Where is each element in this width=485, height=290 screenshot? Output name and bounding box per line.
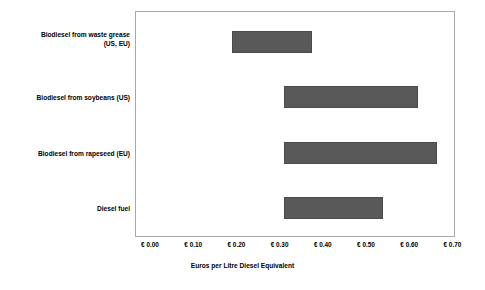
x-tick-label: € 0.30 (260, 241, 300, 248)
category-label-line: Biodiesel from soybeans (US) (8, 94, 130, 103)
x-tick-label: € 0.40 (303, 241, 343, 248)
x-tick-label: € 0.70 (432, 241, 472, 248)
x-tick-label: € 0.20 (216, 241, 256, 248)
category-label-diesel-fuel: Diesel fuel (8, 205, 130, 214)
chart-container: Biodiesel from waste grease (US, EU) Bio… (0, 0, 485, 290)
x-tick-label: € 0.50 (346, 241, 386, 248)
bar-soybeans (284, 86, 418, 108)
bar-waste-grease (232, 31, 312, 53)
category-label-soybeans: Biodiesel from soybeans (US) (8, 94, 130, 103)
bar-diesel-fuel (284, 197, 383, 219)
category-label-waste-grease: Biodiesel from waste grease (US, EU) (8, 31, 130, 48)
category-label-line: (US, EU) (8, 40, 130, 49)
category-label-line: Biodiesel from rapeseed (EU) (8, 150, 130, 159)
category-label-rapeseed: Biodiesel from rapeseed (EU) (8, 150, 130, 159)
x-tick-label: € 0.00 (130, 241, 170, 248)
x-axis-title: Euros per Litre Diesel Equivalent (0, 262, 485, 269)
bar-rapeseed (284, 142, 437, 164)
category-label-line: Biodiesel from waste grease (8, 31, 130, 40)
x-tick-label: € 0.60 (389, 241, 429, 248)
category-label-line: Diesel fuel (8, 205, 130, 214)
x-tick-label: € 0.10 (173, 241, 213, 248)
